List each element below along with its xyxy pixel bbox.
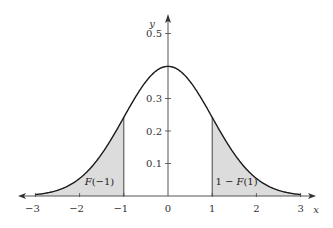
y-tick-label: 0.2	[146, 126, 162, 137]
x-tick-label: −1	[113, 203, 128, 214]
label-f-minus-1: F(−1)	[84, 176, 115, 187]
x-tick-label: −2	[69, 203, 84, 214]
x-tick-label: 1	[209, 203, 215, 214]
axes	[18, 14, 316, 199]
y-tick-label: 0.1	[146, 158, 162, 169]
y-tick-label: 0.5	[146, 28, 162, 39]
annotations: F(−1)1 − F(1)	[84, 176, 258, 187]
x-axis-label: x	[313, 204, 319, 215]
y-tick-label: 0.3	[146, 93, 162, 104]
x-tick-label: −3	[25, 203, 40, 214]
x-tick-label: 2	[253, 203, 259, 214]
label-1-minus-f-1: 1 − F(1)	[215, 176, 257, 187]
x-tick-label: 3	[297, 203, 303, 214]
x-tick-label: 0	[165, 203, 171, 214]
normal-distribution-chart: y x −3−2−101230.10.20.30.5 F(−1)1 − F(1)	[0, 0, 333, 228]
